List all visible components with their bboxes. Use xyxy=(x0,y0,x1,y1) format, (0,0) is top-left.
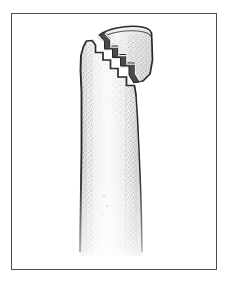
shaft-left-cortex-line xyxy=(80,55,82,252)
bone-fracture-illustration xyxy=(0,0,229,282)
bone-drawing-group xyxy=(80,26,154,256)
figure-root: Bone fracture illustration long bone wit… xyxy=(0,0,229,282)
